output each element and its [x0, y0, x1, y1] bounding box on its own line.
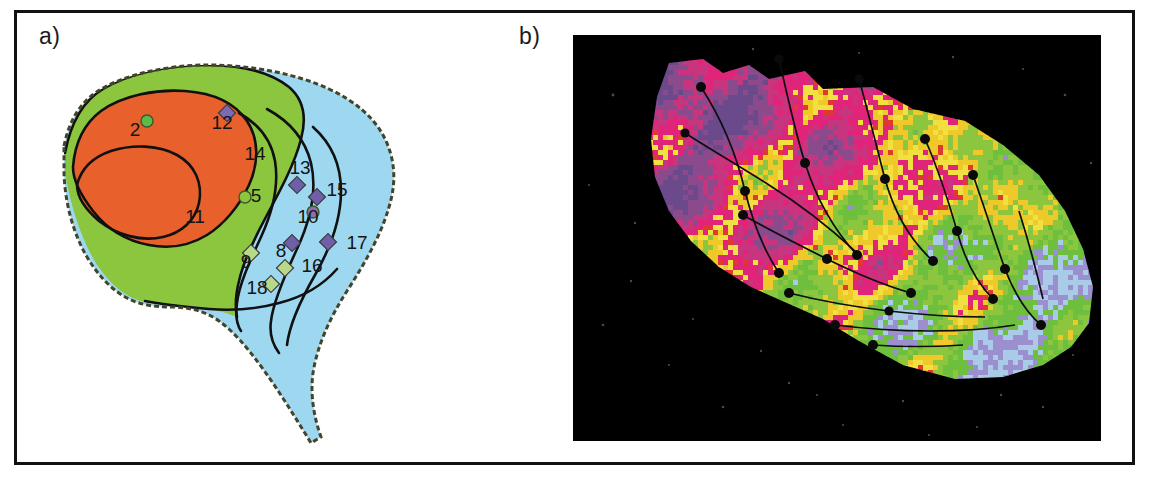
zone-map-svg: 2111214513151017891618 [17, 13, 517, 468]
zone-label-14: 14 [244, 143, 266, 164]
raster-canvas [573, 35, 1101, 441]
zone-label-13: 13 [289, 157, 310, 178]
zone-label-5: 5 [251, 185, 262, 206]
zone-label-12: 12 [211, 112, 232, 133]
zone-label-8: 8 [276, 240, 287, 261]
panel-a-zone-map: a) [17, 13, 517, 462]
zone-label-16: 16 [301, 255, 322, 276]
zone-label-15: 15 [326, 179, 347, 200]
zone-label-10: 10 [297, 206, 318, 227]
panel-b-raster-image: b) [517, 13, 1135, 462]
zone-label-17: 17 [346, 232, 367, 253]
sample-marker-5[interactable] [239, 191, 251, 203]
panel-b-label: b) [519, 23, 540, 50]
zone-label-2: 2 [130, 119, 141, 140]
figure-frame: a) [14, 10, 1135, 465]
raster-svg [573, 35, 1101, 441]
sample-marker-2[interactable] [141, 115, 153, 127]
zone-label-18: 18 [246, 277, 267, 298]
zone-label-9: 9 [241, 251, 252, 272]
zone-label-11: 11 [185, 206, 205, 227]
